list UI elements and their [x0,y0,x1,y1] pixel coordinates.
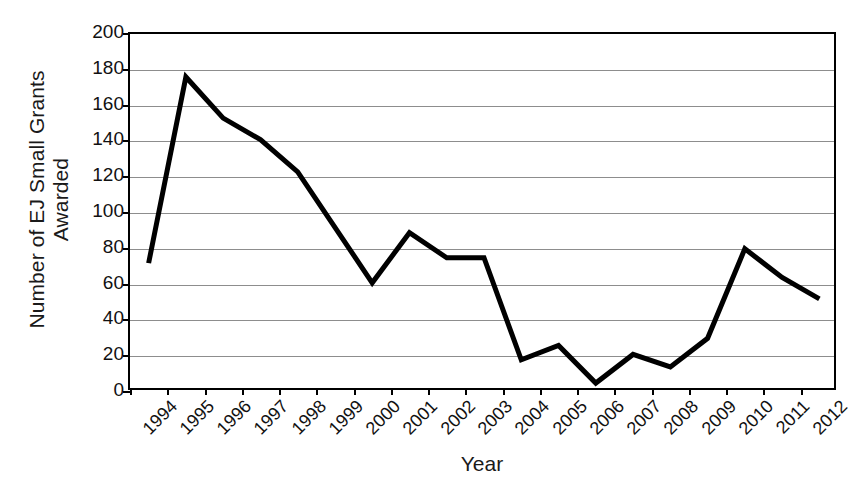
y-tick-label-20: 20 [103,343,124,365]
x-tick-label-2007: 2007 [611,396,651,417]
y-axis-title-line2: Awarded [48,71,72,329]
y-tick-label-60: 60 [103,272,124,294]
x-tick-label-2008: 2008 [648,396,688,417]
y-axis-title-line1: Number of EJ Small Grants [24,71,47,329]
y-tick-label-160: 160 [92,93,124,115]
data-polyline [149,77,820,383]
y-tick-mark-160 [123,105,130,107]
y-axis-title-text: Number of EJ Small Grants Awarded [24,71,71,329]
x-tick-label-2011: 2011 [761,396,800,417]
x-tick-label-2012: 2012 [797,396,837,417]
x-tick-label-1994: 1994 [127,396,167,417]
x-tick-label-1997: 1997 [238,396,278,417]
y-tick-mark-140 [123,140,130,142]
y-axis-title: Number of EJ Small Grants Awarded [0,0,96,400]
y-tick-label-180: 180 [92,57,124,79]
x-tick-label-2010: 2010 [723,396,763,417]
x-tick-label-2005: 2005 [536,396,576,417]
x-axis-title: Year [128,452,836,476]
x-tick-label-1996: 1996 [201,396,241,417]
y-tick-label-200: 200 [92,21,124,43]
plot-area [128,32,836,390]
x-tick-label-2003: 2003 [462,396,502,417]
y-tick-label-100: 100 [92,200,124,222]
x-tick-label-2004: 2004 [499,396,539,417]
y-tick-mark-180 [123,69,130,71]
y-tick-mark-200 [123,33,130,35]
x-tick-label-2001: 2001 [387,396,427,417]
y-tick-mark-120 [123,176,130,178]
y-tick-label-140: 140 [92,128,124,150]
y-tick-label-80: 80 [103,236,124,258]
y-tick-mark-60 [123,284,130,286]
line-series-ej-small-grants [130,34,838,392]
x-tick-label-1998: 1998 [276,396,316,417]
y-tick-mark-80 [123,248,130,250]
y-tick-mark-100 [123,212,130,214]
x-tick-label-2009: 2009 [686,396,726,417]
chart-figure: Number of EJ Small Grants Awarded 020406… [0,0,860,496]
x-tick-label-1995: 1995 [164,396,204,417]
x-tick-label-1999: 1999 [313,396,353,417]
y-axis-tick-labels: 020406080100120140160180200 [86,32,124,390]
data-series-layer [130,34,834,388]
x-tick-label-2002: 2002 [425,396,465,417]
y-tick-mark-20 [123,355,130,357]
x-axis-tick-labels: 1994199519961997199819992000200120022003… [128,392,836,450]
y-tick-mark-40 [123,319,130,321]
x-tick-label-text: 2012 [809,396,852,439]
x-tick-label-2006: 2006 [574,396,614,417]
y-tick-label-40: 40 [103,307,124,329]
y-tick-label-120: 120 [92,164,124,186]
y-tick-label-0: 0 [113,379,124,401]
x-tick-label-2000: 2000 [350,396,390,417]
